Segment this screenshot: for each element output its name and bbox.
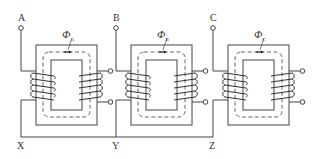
phase-b-unit (114, 26, 208, 137)
terminal-label-x: X (17, 141, 24, 151)
flux-label-a: ΦA (62, 29, 74, 42)
terminal-label-a: A (18, 13, 25, 23)
terminal-label-y: Y (112, 141, 119, 151)
flux-label-c: ΦC (254, 29, 266, 42)
phase-a-unit (19, 26, 113, 137)
phase-c-unit (211, 26, 305, 137)
transformer-diagram (0, 0, 315, 159)
terminal-label-z: Z (209, 141, 215, 151)
terminal-label-c: C (210, 13, 217, 23)
flux-label-b: ΦB (157, 29, 169, 42)
terminal-label-b: B (113, 13, 120, 23)
